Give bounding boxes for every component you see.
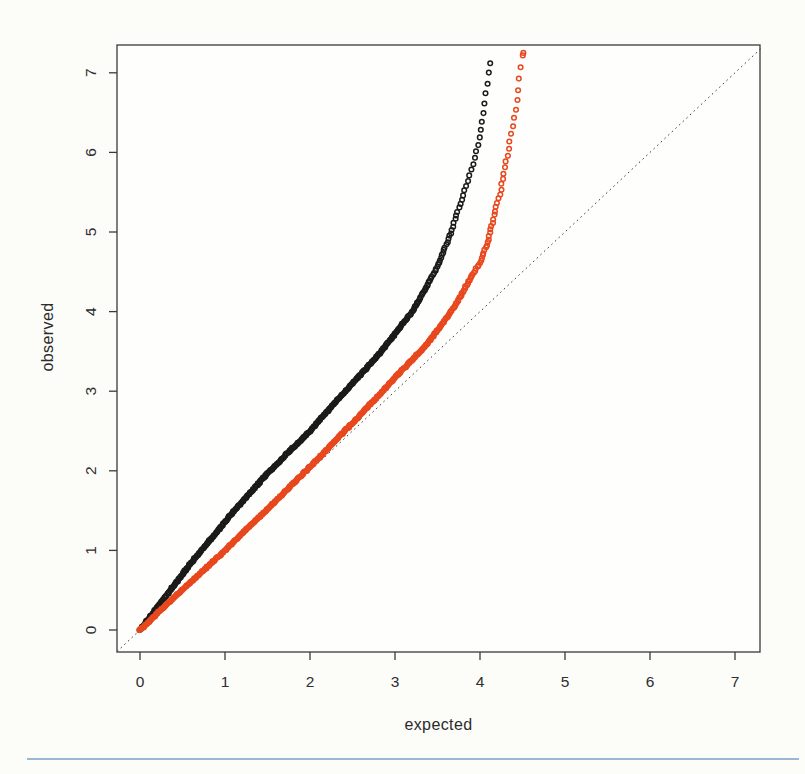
y-tick-label: 6 [82, 148, 99, 157]
x-axis: 01234567 [136, 652, 740, 690]
qq-plot-figure: 0123456701234567 expected observed [0, 0, 805, 774]
y-tick-label: 2 [82, 466, 99, 475]
y-tick-label: 7 [82, 68, 99, 77]
x-tick-label: 7 [731, 673, 740, 690]
y-axis: 01234567 [82, 68, 117, 634]
y-axis-title: observed [39, 302, 57, 371]
qq-plot-canvas: 0123456701234567 [0, 0, 805, 774]
page-divider-line [27, 758, 799, 760]
x-tick-label: 6 [646, 673, 655, 690]
y-tick-label: 4 [82, 307, 99, 316]
x-tick-label: 2 [306, 673, 315, 690]
y-tick-label: 1 [82, 546, 99, 555]
x-tick-label: 0 [136, 673, 145, 690]
x-tick-label: 3 [391, 673, 400, 690]
y-tick-label: 0 [82, 625, 99, 634]
y-tick-label: 3 [82, 387, 99, 396]
scanned-page: 0123456701234567 expected observed [0, 0, 805, 774]
y-tick-label: 5 [82, 228, 99, 237]
x-tick-label: 1 [221, 673, 230, 690]
x-tick-label: 5 [561, 673, 570, 690]
x-tick-label: 4 [476, 673, 485, 690]
x-axis-title: expected [117, 716, 760, 734]
